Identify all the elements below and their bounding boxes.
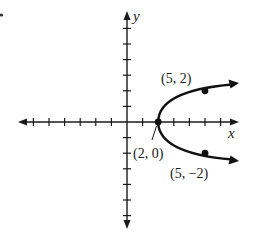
upper-point-label: (5, 2)	[161, 71, 192, 87]
x-axis-label: x	[227, 125, 235, 141]
y-axis-down-arrow-icon	[124, 220, 131, 229]
curve-lower-arrow-icon	[229, 156, 240, 165]
x-axis-left-arrow-icon	[18, 119, 27, 126]
vertex-label: (2, 0)	[133, 146, 164, 162]
parabola-graph: x y (2, 0) (5, 2	[0, 0, 255, 235]
bullet-mark	[0, 13, 3, 16]
lower-point	[202, 150, 209, 157]
lower-point-label: (5, −2)	[170, 166, 209, 182]
vertex-leader-line	[152, 126, 157, 140]
upper-point	[202, 87, 209, 94]
y-axis-up-arrow-icon	[124, 11, 131, 20]
y-axis: y	[123, 8, 140, 229]
y-axis-label: y	[131, 8, 140, 24]
vertex-point	[155, 119, 162, 126]
curve-upper-arrow-icon	[229, 80, 240, 89]
